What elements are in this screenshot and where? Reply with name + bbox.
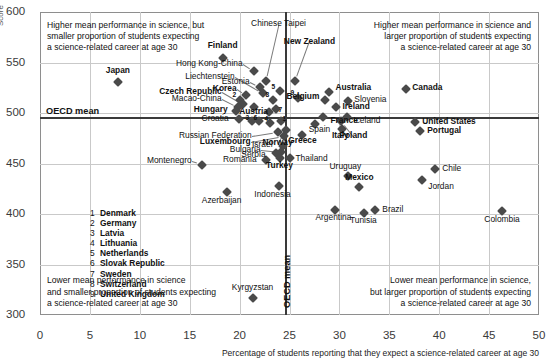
legend-item: 8Switzerland xyxy=(90,279,165,289)
legend-item-number: 3 xyxy=(90,228,100,238)
data-point-label: Uruguay xyxy=(330,162,362,171)
x-tick-label: 45 xyxy=(483,329,496,341)
data-point-label: Jordan xyxy=(428,182,454,191)
legend-item: 4Lithuania xyxy=(90,238,165,248)
data-point-label: Greece xyxy=(288,136,316,145)
gridline-horizontal xyxy=(40,63,539,64)
x-axis-title: Percentage of students reporting that th… xyxy=(222,348,539,358)
y-axis-title: Score xyxy=(0,5,5,26)
data-point-marker[interactable] xyxy=(275,86,285,96)
legend-item-number: 5 xyxy=(90,248,100,258)
legend-item-number: 6 xyxy=(90,258,100,268)
chart-page: Score Percentage of students reporting t… xyxy=(0,0,551,364)
data-point-label: Iceland xyxy=(353,116,380,125)
data-point-label: Colombia xyxy=(484,215,519,224)
legend-item: 7Sweden xyxy=(90,269,165,279)
data-point-label: 3 xyxy=(246,114,250,121)
data-point-label: Finland xyxy=(208,41,238,50)
data-point-label: 4 xyxy=(265,115,269,122)
y-tick-label: 550 xyxy=(6,56,25,68)
data-point-label: Belgium xyxy=(286,92,319,101)
data-point-label: Turkey xyxy=(266,161,293,170)
legend-item-number: 9 xyxy=(90,289,100,299)
legend-item-number: 7 xyxy=(90,269,100,279)
data-point-label: 1 xyxy=(283,115,287,122)
legend-item-label: Lithuania xyxy=(100,238,137,248)
legend-item-number: 1 xyxy=(90,208,100,218)
legend-item-label: Netherlands xyxy=(100,248,148,258)
data-point-label: 8 xyxy=(266,91,270,98)
oecd-mean-vertical-label: OECD mean xyxy=(282,255,292,308)
x-tick-label: 0 xyxy=(37,329,43,341)
x-tick-label: 10 xyxy=(133,329,146,341)
legend-item-number: 2 xyxy=(90,218,100,228)
data-point-label: Hong Kong-China xyxy=(176,59,243,68)
legend-item: 9United Kingdom xyxy=(90,289,165,299)
data-point-label: Australia xyxy=(335,83,371,92)
x-tick-label: 50 xyxy=(533,329,546,341)
legend-item: 1Denmark xyxy=(90,208,165,218)
x-tick-label: 25 xyxy=(283,329,296,341)
data-point-label: Indonesia xyxy=(254,190,290,199)
data-point-marker[interactable] xyxy=(248,293,258,303)
legend-item: 3Latvia xyxy=(90,228,165,238)
data-point-label: Japan xyxy=(106,66,130,75)
data-point-label: Macao-China xyxy=(172,94,222,103)
data-point-label: Tunisia xyxy=(350,216,377,225)
data-point-label: 5 xyxy=(272,83,276,90)
legend-item: 5Netherlands xyxy=(90,248,165,258)
data-point-marker[interactable] xyxy=(354,182,364,192)
legend-item-label: Switzerland xyxy=(100,279,147,289)
legend-item-label: Germany xyxy=(100,218,136,228)
data-point-marker[interactable] xyxy=(415,126,425,136)
data-point-label: Romania xyxy=(223,155,257,164)
x-tick-label: 30 xyxy=(333,329,346,341)
x-tick-label: 35 xyxy=(383,329,396,341)
data-point-marker[interactable] xyxy=(197,160,207,170)
data-point-marker[interactable] xyxy=(401,84,411,94)
data-point-label: 2 xyxy=(233,91,237,98)
data-point-marker[interactable] xyxy=(249,66,259,76)
data-point-label: Montenegro xyxy=(147,156,192,165)
data-point-label: Chile xyxy=(442,164,461,173)
data-point-label: 6 xyxy=(254,114,258,121)
legend-item-label: Latvia xyxy=(100,228,124,238)
label-leader-line xyxy=(266,24,279,76)
data-point-label: 7 xyxy=(279,106,283,113)
data-point-label: Azerbaijan xyxy=(202,196,242,205)
data-point-label: Argentina xyxy=(315,213,351,222)
data-point-label: Thailand xyxy=(295,154,327,163)
legend-item-number: 4 xyxy=(90,238,100,248)
y-tick-label: 450 xyxy=(6,157,25,169)
label-leader-line xyxy=(242,64,249,69)
quadrant-note-bottom-right: Lower mean performance in science, but l… xyxy=(370,275,531,309)
y-tick-label: 400 xyxy=(6,207,25,219)
quadrant-note-top-left: Higher mean performance in science, but … xyxy=(47,20,204,54)
data-point-label: Canada xyxy=(412,83,442,92)
legend-item: 6Slovak Republic xyxy=(90,258,165,268)
y-tick-label: 600 xyxy=(6,5,25,17)
legend: 1Denmark2Germany3Latvia4Lithuania5Nether… xyxy=(90,208,165,299)
data-point-marker[interactable] xyxy=(113,77,123,87)
data-point-label: Chinese Taipei xyxy=(251,19,306,28)
oecd-mean-horizontal-label: OECD mean xyxy=(46,106,99,116)
legend-item-label: Slovak Republic xyxy=(100,258,165,268)
data-point-label: New Zealand xyxy=(284,37,335,46)
gridline-horizontal xyxy=(40,113,539,114)
data-point-marker[interactable] xyxy=(417,175,427,185)
x-tick-label: 40 xyxy=(433,329,446,341)
data-point-label: Liechtenstein xyxy=(185,72,234,81)
legend-item-number: 8 xyxy=(90,279,100,289)
legend-item-label: Denmark xyxy=(100,208,136,218)
legend-item: 2Germany xyxy=(90,218,165,228)
data-point-label: Poland xyxy=(339,131,367,140)
data-point-label: Kyrgyzstan xyxy=(232,283,273,292)
data-point-label: Spain xyxy=(309,125,330,134)
y-tick-label: 300 xyxy=(6,308,25,320)
data-point-label: Mexico xyxy=(345,173,373,182)
data-point-label: Ireland xyxy=(342,102,369,111)
label-leader-line xyxy=(297,43,310,77)
data-point-marker[interactable] xyxy=(291,76,301,86)
legend-item-label: United Kingdom xyxy=(100,289,165,299)
data-point-label: Portugal xyxy=(427,126,461,135)
